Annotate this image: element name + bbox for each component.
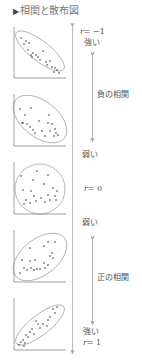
scatter-plot-weak-negative xyxy=(4,86,75,153)
label-strong-bottom: 強い xyxy=(83,327,99,337)
correlation-diagram xyxy=(0,0,142,360)
label-positive-correlation: 正の相関 xyxy=(97,273,129,283)
label-weak-upper: 弱い xyxy=(82,150,98,160)
label-weak-lower: 弱い xyxy=(82,218,98,228)
label-strong-top: 強い xyxy=(84,38,100,48)
label-r-one: r= 1 xyxy=(83,338,101,348)
scatter-plot-weak-positive xyxy=(4,224,75,291)
scatter-plot-strong-negative xyxy=(10,25,70,78)
scatter-plot-no-correlation xyxy=(14,162,66,214)
label-negative-correlation: 負の相関 xyxy=(97,90,129,100)
label-r-zero: r= 0 xyxy=(84,184,102,194)
scatter-plot-strong-positive xyxy=(10,298,70,351)
label-r-minus-one: r= −1 xyxy=(80,27,105,37)
